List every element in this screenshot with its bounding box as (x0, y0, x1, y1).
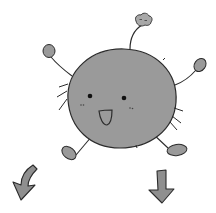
right-arm (175, 56, 209, 85)
cloud-icon (135, 13, 152, 26)
left-leg (59, 136, 92, 162)
right-eye (122, 96, 127, 101)
left-arm (43, 45, 72, 77)
antenna (130, 25, 142, 49)
left-eye (88, 94, 93, 99)
creature-illustration: Round gray fuzzy creature jumping with a… (0, 0, 216, 213)
creature-body (57, 49, 183, 148)
curved-down-left-arrow-icon (13, 165, 37, 200)
body-fuzz-left (57, 84, 68, 110)
straight-down-arrow-icon (149, 170, 174, 203)
